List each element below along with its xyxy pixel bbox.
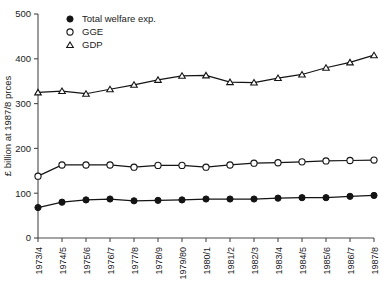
legend-label: GDP [82,39,103,50]
x-tick-label: 1973/4 [34,247,44,275]
x-tick-label: 1985/6 [322,247,332,275]
data-point [155,197,161,203]
x-tick-label: 1978/9 [154,247,164,275]
x-tick-label: 1983/4 [274,247,284,275]
x-tick-label: 1975/6 [82,247,92,275]
data-point [179,197,185,203]
y-tick-label: 300 [15,98,31,109]
legend-marker-filled-circle [67,16,73,22]
y-axis-title: £ billion at 1987/8 prces [2,76,13,177]
y-tick-label: 100 [15,188,31,199]
data-point [323,158,329,164]
x-tick-label: 1976/7 [106,247,116,275]
data-point [83,197,89,203]
data-point [203,196,209,202]
data-point [251,160,257,166]
legend-label: GGE [82,26,103,37]
series-total-welfare-exp [35,192,377,210]
legend-marker-open-circle [67,29,73,35]
x-tick-label: 1979/80 [178,247,188,280]
data-point [347,193,353,199]
x-tick-label: 1974/5 [58,247,68,275]
data-point [227,162,233,168]
data-point [347,157,353,163]
data-point [299,159,305,165]
data-point [251,196,257,202]
data-point [107,196,113,202]
data-point [203,164,209,170]
data-point [275,195,281,201]
data-point [275,160,281,166]
data-point [371,52,378,57]
x-tick-label: 1980/1 [202,247,212,275]
line-chart: 01002003004005001973/41974/51975/61976/7… [0,0,380,292]
data-point [83,162,89,168]
data-point [131,198,137,204]
x-tick-label: 1982/3 [250,247,260,275]
data-point [131,164,137,170]
x-tick-label: 1981/2 [226,247,236,275]
x-tick-label: 1984/5 [298,247,308,275]
data-point [371,157,377,163]
data-point [35,173,41,179]
series-gge [35,157,377,179]
series-gdp [35,52,378,96]
y-tick-label: 500 [15,8,31,19]
data-point [323,195,329,201]
data-point [59,162,65,168]
data-point [155,162,161,168]
y-tick-label: 400 [15,53,31,64]
data-point [59,199,65,205]
legend: Total welfare exp.GGEGDP [67,13,156,50]
data-point [227,196,233,202]
x-tick-label: 1987/8 [370,247,380,275]
legend-marker-open-triangle [67,42,74,47]
y-tick-label: 0 [26,232,31,243]
data-point [179,162,185,168]
data-point [107,162,113,168]
data-point [35,204,41,210]
chart-container: 01002003004005001973/41974/51975/61976/7… [0,0,380,292]
data-point [299,195,305,201]
x-tick-label: 1986/7 [346,247,356,275]
data-point [371,192,377,198]
legend-label: Total welfare exp. [82,13,156,24]
x-tick-label: 1977/8 [130,247,140,275]
y-tick-label: 200 [15,143,31,154]
